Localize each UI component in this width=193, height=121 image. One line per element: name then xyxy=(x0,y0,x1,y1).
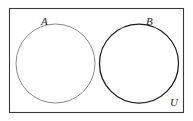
set-a-label: A xyxy=(41,16,48,27)
venn-diagram-figure: A B U xyxy=(0,0,193,121)
venn-diagram-canvas xyxy=(0,0,193,121)
universal-set-label: U xyxy=(170,97,178,108)
set-b-label: B xyxy=(146,16,153,27)
universal-set-rectangle xyxy=(10,9,184,113)
